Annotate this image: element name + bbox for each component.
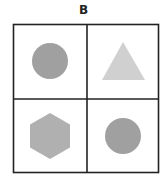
shape-grid [0,0,167,184]
hexagon-shape [30,113,70,159]
circle-shape [105,118,141,154]
triangle-shape [102,42,145,80]
circle-shape [32,43,68,79]
